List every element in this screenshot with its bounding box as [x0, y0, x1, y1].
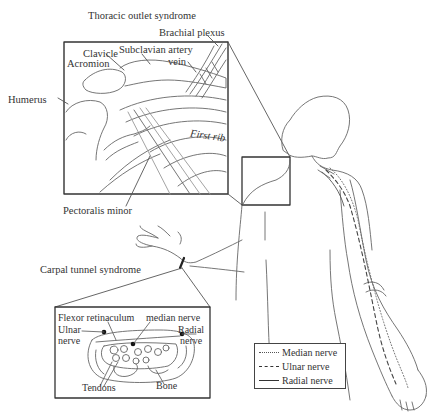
legend-item-median: Median nerve [259, 346, 337, 358]
legend-label: Radial nerve [282, 375, 333, 386]
nerve-legend: Median nerve Ulnar nerve Radial nerve [254, 343, 346, 389]
solid-line-icon [259, 380, 279, 381]
label-subclavian-artery: Subclavian artery [119, 45, 193, 56]
dotted-line-icon [259, 352, 279, 353]
label-ulnar-nerve-line1: Ulnar [58, 325, 81, 335]
label-humerus: Humerus [8, 95, 47, 106]
label-acromion: Acromion [67, 59, 110, 70]
title-thoracic-outlet: Thoracic outlet syndrome [88, 11, 196, 22]
legend-item-ulnar: Ulnar nerve [259, 360, 329, 372]
label-radial-nerve-line2: nerve [180, 336, 202, 346]
label-brachial-plexus: Brachial plexus [159, 28, 225, 39]
legend-label: Median nerve [282, 347, 337, 358]
label-tendons: Tendons [82, 383, 116, 393]
legend-label: Ulnar nerve [282, 361, 329, 372]
title-carpal-tunnel: Carpal tunnel syndrome [40, 265, 141, 276]
label-ulnar-nerve-line2: nerve [58, 336, 80, 346]
label-flexor-retinaculum: Flexor retinaculum [58, 313, 134, 323]
label-vein: vein [168, 57, 186, 68]
dashed-line-icon [259, 366, 279, 367]
label-bone: Bone [156, 381, 177, 391]
legend-item-radial: Radial nerve [259, 374, 333, 386]
label-median-nerve: median nerve [146, 313, 200, 323]
label-pectoralis-minor: Pectoralis minor [63, 206, 132, 217]
label-radial-nerve-line1: Radial [178, 325, 204, 335]
